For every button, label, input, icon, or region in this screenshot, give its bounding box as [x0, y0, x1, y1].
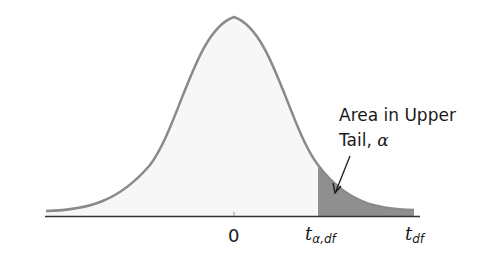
axis-variable-label: tdf: [405, 223, 424, 244]
annotation-arrow: [336, 156, 350, 191]
alpha-symbol: α: [377, 130, 388, 150]
annotation-line-1: Area in Upper: [339, 105, 456, 126]
tick-label-zero: 0: [228, 225, 239, 246]
critical-t-subscript: α,df: [312, 232, 336, 246]
annotation-line-2: Tail, α: [339, 130, 389, 151]
tick-label-critical-value: tα,df: [305, 223, 336, 244]
annotation-tail-text: Tail,: [339, 130, 377, 150]
axis-t-subscript: df: [412, 232, 424, 246]
distribution-plot: [0, 0, 499, 268]
t-distribution-diagram: Area in Upper Tail, α 0 tα,df tdf: [0, 0, 499, 268]
